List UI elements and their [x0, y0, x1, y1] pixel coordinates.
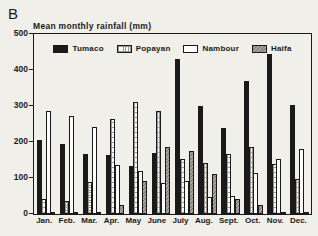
bar-group-jan	[37, 111, 55, 214]
x-axis-label-nov: Nov.	[267, 216, 284, 225]
bar-nambour-dec	[299, 149, 304, 214]
bar-group-oct	[244, 81, 262, 214]
y-tick-mark	[29, 213, 33, 214]
bar-group-mar	[83, 127, 101, 214]
bar-group-feb	[60, 116, 78, 214]
y-tick-mark	[29, 141, 33, 142]
bar-group-dec	[290, 105, 308, 214]
bar-group-aug	[198, 106, 216, 214]
x-axis-label-feb: Feb.	[59, 216, 75, 225]
y-tick-label: 500	[2, 28, 28, 38]
bar-haifa-aug	[212, 174, 217, 214]
bar-group-june	[152, 111, 170, 214]
bar-haifa-dec	[304, 212, 309, 214]
bar-nambour-mar	[92, 127, 97, 214]
y-tick-mark	[29, 33, 33, 34]
x-axis-label-sept: Sept.	[219, 216, 239, 225]
bar-group-apr	[106, 119, 124, 214]
bar-group-may	[129, 102, 147, 214]
bar-haifa-oct	[258, 205, 263, 214]
panel-label: B	[8, 5, 19, 22]
chart-title: Mean monthly rainfall (mm)	[33, 21, 151, 31]
x-axis-label-oct: Oct.	[245, 216, 261, 225]
rainfall-figure: B Mean monthly rainfall (mm) TumacoPopay…	[0, 0, 318, 236]
x-axis-label-aug: Aug.	[195, 216, 213, 225]
x-axis: Jan.Feb.Mar.Apr.MayJuneJulyAug.Sept.Oct.…	[33, 216, 310, 225]
bar-haifa-july	[189, 151, 194, 214]
x-axis-label-july: July	[173, 216, 189, 225]
x-axis-label-may: May	[126, 216, 142, 225]
y-tick-mark	[29, 69, 33, 70]
y-tick-label: 400	[2, 64, 28, 74]
bar-haifa-sept	[235, 199, 240, 214]
plot-area: TumacoPopayanNambourHaifa	[33, 33, 312, 215]
bar-haifa-jan	[50, 212, 55, 214]
bar-haifa-apr	[119, 205, 124, 214]
y-tick-mark	[29, 177, 33, 178]
x-axis-label-dec: Dec.	[290, 216, 307, 225]
bar-haifa-may	[142, 181, 147, 214]
y-tick-label: 300	[2, 100, 28, 110]
bar-haifa-feb	[73, 212, 78, 214]
bar-group-nov	[267, 54, 285, 214]
bars-container	[34, 34, 311, 214]
bar-nambour-jan	[46, 111, 51, 214]
bar-nambour-feb	[69, 116, 74, 214]
bar-group-sept	[221, 128, 239, 214]
x-axis-label-jan: Jan.	[36, 216, 52, 225]
y-tick-label: 0	[2, 208, 28, 218]
bar-nambour-nov	[276, 159, 281, 214]
x-axis-label-apr: Apr.	[104, 216, 120, 225]
bar-group-july	[175, 59, 193, 214]
x-axis-label-mar: Mar.	[81, 216, 97, 225]
y-tick-label: 200	[2, 136, 28, 146]
y-tick-mark	[29, 105, 33, 106]
y-tick-label: 100	[2, 172, 28, 182]
bar-haifa-mar	[96, 212, 101, 214]
bar-haifa-june	[165, 147, 170, 214]
bar-haifa-nov	[281, 212, 286, 214]
x-axis-label-june: June	[148, 216, 167, 225]
